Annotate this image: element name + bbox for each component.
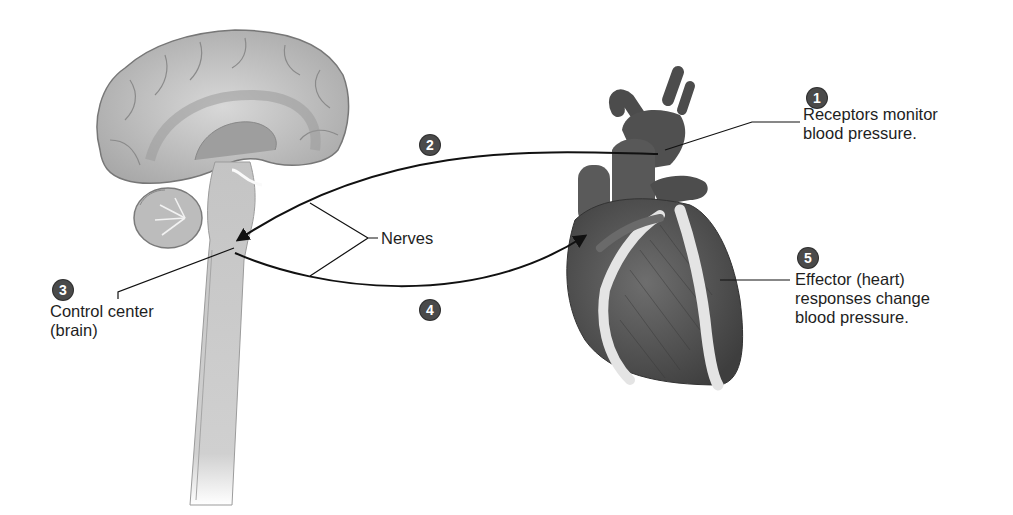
cerebellum [134, 188, 202, 248]
receptor-leader [665, 122, 800, 150]
step-badge-4: 4 [420, 300, 440, 320]
brain-illustration [97, 30, 349, 505]
diagram-canvas [0, 0, 1013, 515]
step-badge-5: 5 [798, 248, 818, 268]
cerebrum [97, 30, 349, 183]
receptors-label: Receptors monitor blood pressure. [803, 105, 938, 143]
nerves-label: Nerves [381, 229, 433, 248]
nerves-bracket [310, 203, 378, 276]
step-badge-2: 2 [420, 135, 440, 155]
control-center-label: Control center (brain) [50, 302, 154, 340]
heart-illustration [567, 72, 743, 385]
effector-label: Effector (heart) responses change blood … [795, 270, 930, 327]
step-badge-3: 3 [53, 280, 73, 300]
